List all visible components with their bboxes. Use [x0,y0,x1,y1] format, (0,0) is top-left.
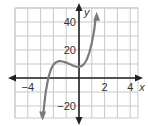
x-axis-arrow-left-icon [8,75,16,82]
y-tick-label: 40 [64,16,76,28]
y-axis-arrow-down-icon [76,117,83,125]
x-tick-label: 2 [102,81,108,93]
grid-border [15,8,138,118]
curve-arrow-up-icon [93,12,100,21]
x-tick-label: 4 [127,81,133,93]
cubic-function-graph: −4244020−20xy [0,0,148,126]
y-tick-label: 20 [64,44,76,56]
y-axis-arrow-up-icon [76,3,83,11]
y-tick-label: −20 [57,100,76,112]
x-tick-label: −4 [22,81,35,93]
grid [15,8,138,118]
x-axis-label: x [138,81,145,93]
